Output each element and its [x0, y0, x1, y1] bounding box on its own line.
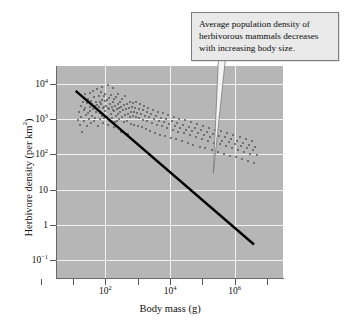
scatter-point [253, 162, 255, 164]
scatter-point [229, 155, 231, 157]
scatter-point [125, 108, 127, 110]
scatter-point [211, 149, 213, 151]
gridline-horizontal-3 [57, 190, 283, 191]
scatter-point [123, 121, 125, 123]
annotation-line-3: with increasing body size. [199, 42, 331, 54]
scatter-point [109, 120, 111, 122]
scatter-point [256, 154, 258, 156]
scatter-point [246, 147, 248, 149]
scatter-point [101, 86, 103, 88]
scatter-point [145, 128, 147, 130]
scatter-point [174, 125, 176, 127]
scatter-point [218, 135, 220, 137]
scatter-point [161, 125, 163, 127]
y-tick-label-0: 104 [35, 79, 48, 89]
scatter-point [106, 116, 108, 118]
scatter-point [94, 105, 96, 107]
y-tick-5 [50, 260, 56, 261]
scatter-point [182, 124, 184, 126]
scatter-point [132, 115, 134, 117]
scatter-point [129, 116, 131, 118]
scatter-point [200, 129, 202, 131]
scatter-point [141, 126, 143, 128]
annotation-callout: Average population density of herbivorou… [191, 12, 339, 61]
y-tick-3 [50, 190, 56, 191]
scatter-point [197, 132, 199, 134]
scatter-point [190, 121, 192, 123]
scatter-point [80, 116, 82, 118]
scatter-point [121, 98, 123, 100]
scatter-point [120, 131, 122, 133]
scatter-point [96, 88, 98, 90]
scatter-point [243, 151, 245, 153]
scatter-point [91, 103, 93, 105]
scatter-point [120, 106, 122, 108]
scatter-point [206, 131, 208, 133]
scatter-point [122, 109, 124, 111]
scatter-point [223, 153, 225, 155]
scatter-point [119, 101, 121, 103]
scatter-point [171, 120, 173, 122]
annotation-line-2: herbivorous mammals decreases [199, 30, 331, 42]
gridline-vertical-1 [105, 66, 106, 278]
scatter-point [226, 132, 228, 134]
scatter-point [225, 145, 227, 147]
scatter-point [131, 106, 133, 108]
scatter-point [113, 126, 115, 128]
scatter-point [220, 130, 222, 132]
scatter-point [121, 116, 123, 118]
scatter-point [142, 109, 144, 111]
scatter-point [110, 113, 112, 115]
scatter-point [130, 111, 132, 113]
scatter-point [126, 103, 128, 105]
scatter-point [203, 134, 205, 136]
x-tick-major-3 [235, 279, 236, 285]
scatter-point [95, 111, 97, 113]
scatter-point [144, 115, 146, 117]
scatter-point [132, 102, 134, 104]
scatter-point [95, 101, 97, 103]
scatter-point [102, 107, 104, 109]
scatter-point [89, 92, 91, 94]
scatter-point [137, 125, 139, 127]
scatter-point [134, 107, 136, 109]
scatter-point [117, 103, 119, 105]
scatter-point [158, 120, 160, 122]
scatter-point [191, 130, 193, 132]
gridline-horizontal-0 [57, 84, 283, 85]
scatter-point [234, 143, 236, 145]
scatter-point [175, 138, 177, 140]
x-tick-label-2: 106 [228, 287, 241, 297]
scatter-point [157, 111, 159, 113]
scatter-point [148, 116, 150, 118]
scatter-point [162, 112, 164, 114]
scatter-point [135, 116, 137, 118]
scatter-point [84, 107, 86, 109]
scatter-point [254, 146, 256, 148]
scatter-point [236, 140, 238, 142]
scatter-point [136, 112, 138, 114]
scatter-point [85, 114, 87, 116]
scatter-point [248, 144, 250, 146]
scatter-point [92, 108, 94, 110]
scatter-point [156, 124, 158, 126]
scatter-point [124, 114, 126, 116]
scatter-point [154, 132, 156, 134]
scatter-point [81, 131, 83, 133]
scatter-point [150, 113, 152, 115]
scatter-point [117, 93, 119, 95]
scatter-point [91, 115, 93, 117]
scatter-point [151, 122, 153, 124]
scatter-point [117, 113, 119, 115]
scatter-point [107, 84, 109, 86]
scatter-point [93, 120, 95, 122]
scatter-point [163, 121, 165, 123]
scatter-point [143, 105, 145, 107]
scatter-point [99, 112, 101, 114]
scatter-point [179, 127, 181, 129]
scatter-point [108, 108, 110, 110]
scatter-point [107, 124, 109, 126]
scatter-point [146, 120, 148, 122]
scatter-point [87, 98, 89, 100]
scatter-point [138, 108, 140, 110]
